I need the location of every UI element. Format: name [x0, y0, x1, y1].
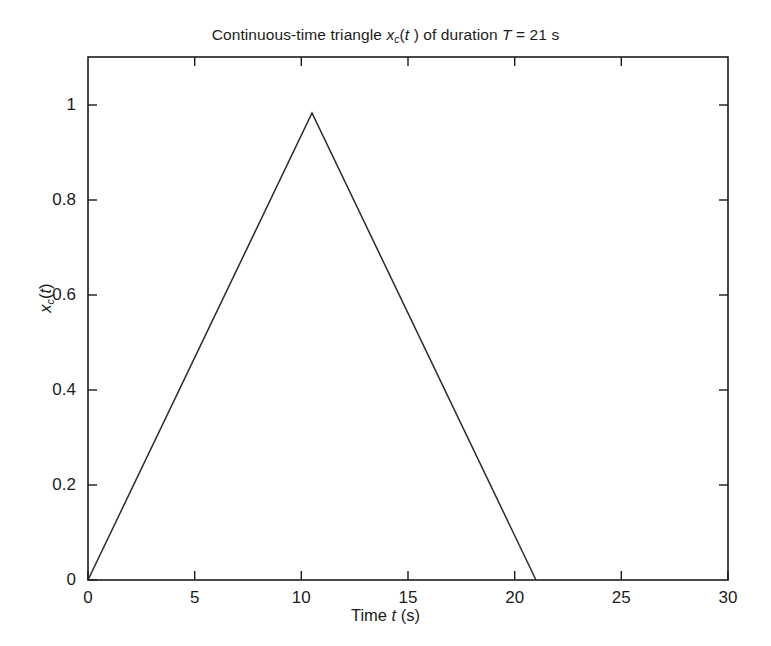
ytick-label-0.4: 0.4 — [32, 380, 76, 400]
xtick-label-0: 0 — [83, 588, 92, 608]
xtick-label-25: 25 — [612, 588, 631, 608]
ytick-label-1: 1 — [32, 95, 76, 115]
xtick-label-5: 5 — [190, 588, 199, 608]
y-axis-label-subscript: c — [44, 299, 56, 304]
figure-canvas: Continuous-time triangle xc(t ) of durat… — [0, 0, 771, 646]
ytick-label-0.2: 0.2 — [32, 475, 76, 495]
y-axis-label: xc(t) — [36, 268, 56, 328]
ytick-label-0.8: 0.8 — [32, 190, 76, 210]
plot-area — [0, 0, 771, 646]
xtick-label-10: 10 — [292, 588, 311, 608]
y-axis-label-arg: (t) — [36, 283, 54, 299]
xtick-label-20: 20 — [505, 588, 524, 608]
ytick-label-0: 0 — [32, 570, 76, 590]
x-axis-label-prefix: Time — [351, 606, 392, 624]
x-axis-label: Time t (s) — [0, 606, 771, 625]
x-axis-label-unit: (s) — [396, 606, 420, 624]
xtick-label-30: 30 — [719, 588, 738, 608]
y-axis-label-arg-var: t — [36, 289, 54, 294]
axes-frame — [88, 57, 728, 580]
xtick-label-15: 15 — [399, 588, 418, 608]
y-axis-label-var: x — [36, 304, 54, 312]
